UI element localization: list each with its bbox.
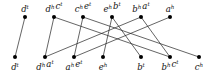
node-label-t0: dt [21, 4, 29, 14]
node-label-b0: dt [11, 62, 19, 72]
edge-t2-b2 [74, 17, 83, 57]
node-t5 [168, 15, 172, 19]
node-label-t5: ah [166, 4, 175, 14]
node-b6 [197, 55, 201, 59]
bipartite-diagram: dtdhctchetehbtbhatahdtdhatahetehbtbhctch [0, 0, 215, 77]
node-b4 [139, 55, 143, 59]
node-t1 [52, 15, 56, 19]
node-label-b3: eh [99, 62, 108, 72]
edge-t2-b6 [83, 17, 199, 57]
node-b3 [101, 55, 105, 59]
edge-t1-b5 [54, 17, 170, 57]
node-t3 [110, 15, 114, 19]
node-b0 [13, 55, 17, 59]
node-label-b6: ch [195, 62, 204, 72]
node-label-b5: bhct [162, 59, 180, 72]
node-label-b1: dhat [36, 59, 54, 72]
node-t4 [139, 15, 143, 19]
node-label-t1: dhct [46, 1, 64, 14]
edge-t3-b3 [103, 17, 112, 57]
node-label-t4: bhat [132, 1, 150, 14]
nodes-layer [13, 15, 201, 59]
edge-t1-b1 [45, 17, 54, 57]
edge-t0-b0 [15, 17, 25, 57]
node-t2 [81, 15, 85, 19]
node-label-b4: bt [137, 62, 145, 72]
node-label-b2: ahet [66, 59, 84, 72]
node-label-t2: chet [75, 1, 92, 14]
node-t0 [23, 15, 27, 19]
edges-layer [15, 17, 199, 57]
node-label-t3: ehbt [103, 1, 121, 14]
